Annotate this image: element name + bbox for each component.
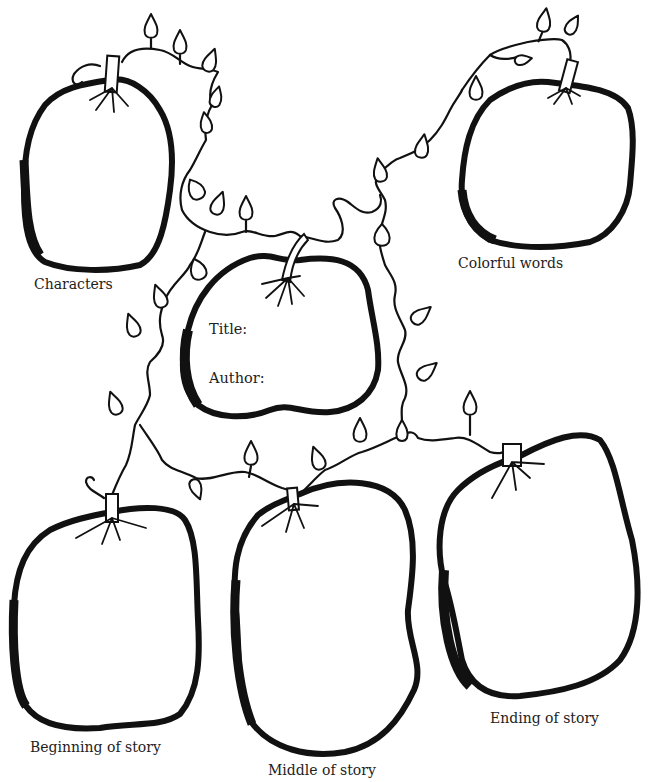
- ending-of-story-label: Ending of story: [490, 710, 599, 726]
- story-map-drawing: [0, 0, 648, 782]
- apple-ending: [440, 435, 638, 696]
- colorful-words-label: Colorful words: [458, 255, 563, 271]
- apple-middle: [235, 483, 418, 754]
- apple-colorful-words: [462, 59, 633, 247]
- author-field-label: Author:: [209, 370, 265, 386]
- beginning-of-story-label: Beginning of story: [30, 739, 161, 755]
- middle-of-story-label: Middle of story: [268, 762, 376, 778]
- apple-characters: [24, 56, 172, 270]
- characters-label: Characters: [34, 276, 113, 292]
- title-field-label: Title:: [209, 321, 247, 337]
- apple-beginning: [13, 477, 199, 728]
